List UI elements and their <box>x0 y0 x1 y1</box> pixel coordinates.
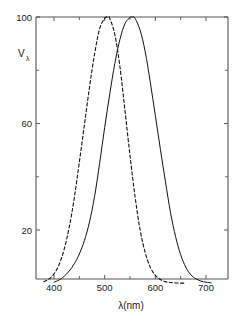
y-tick-label: 60 <box>21 118 32 129</box>
y-axis-ticks <box>36 17 228 230</box>
data-series-group <box>44 17 211 284</box>
x-tick-label: 400 <box>46 282 62 293</box>
x-axis-title: λ(nm) <box>118 300 144 311</box>
curve-photopic <box>54 17 211 283</box>
x-tick-label: 500 <box>97 282 113 293</box>
y-axis-title: V λ <box>18 48 30 62</box>
luminous-efficiency-plot: 400500600700 2060100 V λ λ(nm) <box>0 0 245 321</box>
x-axis-ticks <box>54 17 206 279</box>
x-axis-tick-labels: 400500600700 <box>46 282 214 293</box>
plot-frame <box>36 17 228 279</box>
y-axis-title-base: V <box>18 48 25 59</box>
x-tick-label: 600 <box>147 282 163 293</box>
x-tick-label: 700 <box>198 282 214 293</box>
y-tick-label: 20 <box>21 225 32 236</box>
y-axis-title-subscript: λ <box>26 55 30 62</box>
curve-scotopic <box>44 17 186 284</box>
chart-container: 400500600700 2060100 V λ λ(nm) <box>0 0 245 321</box>
y-tick-label: 100 <box>16 12 32 23</box>
y-axis-tick-labels: 2060100 <box>16 12 32 236</box>
